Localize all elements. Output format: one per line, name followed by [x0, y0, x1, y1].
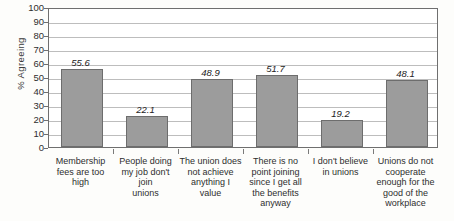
y-axis-tick-mark [44, 22, 48, 23]
y-axis-tick-mark [44, 50, 48, 51]
bar-value-label: 22.1 [116, 104, 176, 115]
y-axis-tick-mark [44, 36, 48, 37]
x-axis-category-label: I don't believein unions [309, 156, 372, 177]
y-axis-tick-label: 60 [4, 58, 44, 69]
x-axis-category-label: Unions do notcooperateenough for thegood… [374, 156, 437, 209]
y-axis-tick-mark [44, 78, 48, 79]
y-axis-tick-label: 40 [4, 86, 44, 97]
bar-chart: % Agreeing 100908070605040302010055.6Mem… [0, 0, 454, 221]
y-axis-tick-mark [44, 120, 48, 121]
bar [126, 116, 168, 147]
bar-value-label: 19.2 [311, 108, 371, 119]
x-axis-tick-mark [308, 149, 309, 154]
y-axis-tick-mark [44, 64, 48, 65]
x-axis-category-label: There is nopoint joiningsince I get allt… [244, 156, 307, 209]
x-axis-category-label: The union doesnot achieveanything I valu… [179, 156, 242, 198]
y-axis-tick-label: 70 [4, 44, 44, 55]
gridline [49, 135, 437, 136]
y-axis-tick-label: 30 [4, 100, 44, 111]
x-axis-tick-mark [113, 149, 114, 154]
bar-value-label: 55.6 [51, 57, 111, 68]
gridline [49, 23, 437, 24]
bar [256, 75, 298, 147]
y-axis-tick-label: 90 [4, 16, 44, 27]
x-axis-tick-mark [243, 149, 244, 154]
gridline [49, 121, 437, 122]
x-axis-tick-mark [373, 149, 374, 154]
x-axis-category-label: People doingmy job don't joinunions [114, 156, 177, 198]
gridline [49, 79, 437, 80]
y-axis-tick-mark [44, 106, 48, 107]
y-axis-tick-mark [44, 134, 48, 135]
gridline [49, 37, 437, 38]
gridline [49, 93, 437, 94]
bar [321, 120, 363, 147]
y-axis-tick-label: 80 [4, 30, 44, 41]
bar-value-label: 48.9 [181, 67, 241, 78]
y-axis-tick-label: 10 [4, 128, 44, 139]
x-axis-category-label: Membershipfees are toohigh [49, 156, 112, 188]
bar [191, 79, 233, 147]
y-axis-tick-label: 100 [4, 2, 44, 13]
x-axis-tick-mark [178, 149, 179, 154]
y-axis-tick-mark [44, 148, 48, 149]
bar-value-label: 51.7 [246, 63, 306, 74]
y-axis-tick-label: 50 [4, 72, 44, 83]
bar [386, 80, 428, 147]
y-axis-tick-mark [44, 8, 48, 9]
bar-value-label: 48.1 [376, 68, 436, 79]
y-axis-tick-label: 20 [4, 114, 44, 125]
y-axis-tick-label: 0 [4, 142, 44, 153]
bar [61, 69, 103, 147]
y-axis-tick-mark [44, 92, 48, 93]
gridline [49, 51, 437, 52]
gridline [49, 107, 437, 108]
